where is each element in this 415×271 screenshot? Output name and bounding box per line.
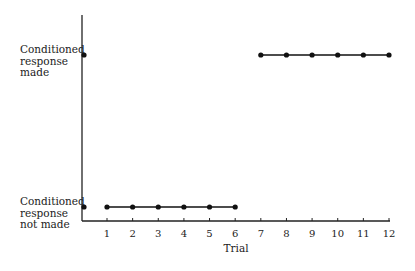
x-tick-label: 4 [181, 228, 187, 239]
series-group [104, 52, 391, 209]
data-point [361, 52, 366, 57]
x-tick-label: 12 [383, 228, 396, 239]
y-level-label-line: not made [20, 218, 70, 230]
y-level-labels: Conditionedresponsenot madeConditionedre… [20, 43, 85, 230]
x-tick-label: 9 [309, 228, 315, 239]
y-level-label-line: Conditioned [20, 195, 85, 207]
y-level-label: Conditionedresponsemade [20, 43, 85, 78]
y-axis-marker-point [81, 204, 86, 209]
y-level-label-line: Conditioned [20, 43, 85, 55]
data-point [386, 52, 391, 57]
data-point [181, 204, 186, 209]
x-tick-label: 11 [357, 228, 370, 239]
data-point [130, 204, 135, 209]
data-point [156, 204, 161, 209]
y-level-label-line: made [20, 66, 49, 78]
x-tick-label: 1 [104, 228, 110, 239]
data-point [104, 204, 109, 209]
data-point [258, 52, 263, 57]
y-axis-marker-point [81, 52, 86, 57]
data-point [233, 204, 238, 209]
series-trials-7-12 [258, 52, 391, 57]
x-axis-label: Trial [224, 242, 250, 254]
data-point [207, 204, 212, 209]
x-tick-label: 5 [206, 228, 212, 239]
y-level-label-line: response [20, 207, 68, 219]
y-level-label-line: response [20, 55, 68, 67]
x-tick-label: 3 [155, 228, 161, 239]
y-level-label: Conditionedresponsenot made [20, 195, 85, 230]
data-point [335, 52, 340, 57]
x-tick-label: 7 [258, 228, 264, 239]
data-point [309, 52, 314, 57]
x-tick-label: 8 [283, 228, 289, 239]
series-trials-1-6 [104, 204, 237, 209]
x-tick-label: 2 [129, 228, 135, 239]
x-tick-labels: 123456789101112 [104, 228, 396, 239]
data-point [284, 52, 289, 57]
chart: 123456789101112 Conditionedresponsenot m… [0, 0, 415, 271]
x-tick-label: 6 [232, 228, 238, 239]
x-tick-label: 10 [331, 228, 344, 239]
